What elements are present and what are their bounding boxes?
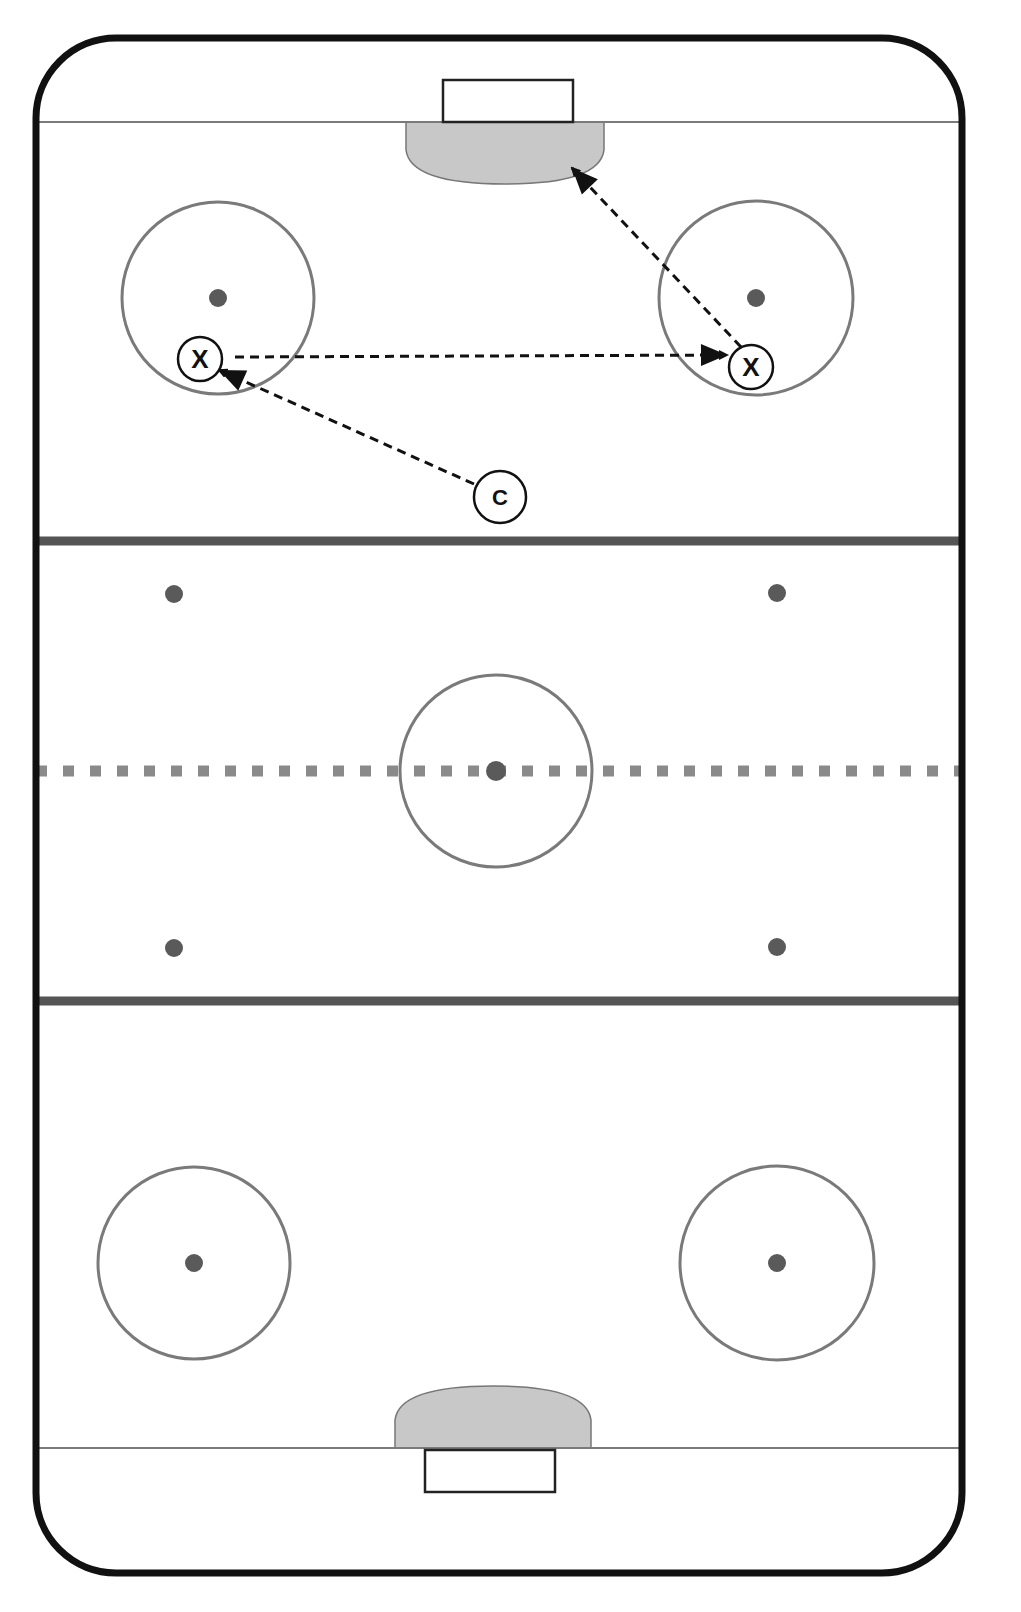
faceoff-dot	[768, 584, 786, 602]
faceoff-dot	[185, 1254, 203, 1272]
player-label: C	[492, 485, 508, 510]
goal-net	[425, 1450, 555, 1492]
faceoff-dot	[768, 1254, 786, 1272]
player-label: X	[742, 352, 760, 382]
ice	[36, 38, 962, 1573]
player-c: C	[474, 471, 526, 523]
faceoff-dot	[747, 289, 765, 307]
hockey-rink-diagram: XXC	[0, 0, 1021, 1612]
faceoff-dot	[165, 939, 183, 957]
faceoff-dot	[165, 585, 183, 603]
player-x1: X	[178, 337, 222, 381]
goal-net	[443, 80, 573, 122]
ice-surface	[36, 38, 962, 1573]
center-faceoff-dot	[486, 761, 506, 781]
goal-crease-top	[406, 122, 604, 184]
goal-crease-bottom	[395, 1386, 591, 1448]
faceoff-dot	[768, 938, 786, 956]
faceoff-dot	[209, 289, 227, 307]
player-x2: X	[729, 345, 773, 389]
player-label: X	[191, 344, 209, 374]
